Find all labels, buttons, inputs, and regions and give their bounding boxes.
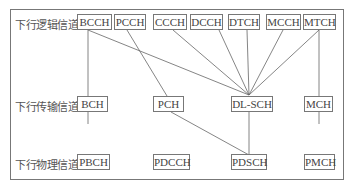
channel-pbch: PBCH bbox=[77, 154, 110, 170]
channel-mtch: MTCH bbox=[303, 14, 336, 30]
channel-ccch: CCCH bbox=[153, 14, 187, 30]
channel-pch: PCH bbox=[153, 96, 184, 112]
row-label-logical: 下行逻辑信道 bbox=[15, 16, 78, 32]
channel-mcch: MCCH bbox=[266, 14, 301, 30]
channel-pmch: PMCH bbox=[304, 154, 335, 170]
channel-dl-sch: DL-SCH bbox=[231, 96, 273, 112]
channel-pdcch: PDCCH bbox=[153, 154, 190, 170]
channel-pcch: PCCH bbox=[114, 14, 146, 30]
row-label-transport: 下行传输信道 bbox=[15, 98, 78, 114]
channel-bcch: BCCH bbox=[77, 14, 112, 30]
row-label-physical: 下行物理信道 bbox=[15, 156, 78, 172]
channel-mch: MCH bbox=[304, 96, 333, 112]
channel-dtch: DTCH bbox=[228, 14, 260, 30]
channel-bch: BCH bbox=[77, 96, 108, 112]
channel-dcch: DCCH bbox=[190, 14, 223, 30]
channel-pdsch: PDSCH bbox=[231, 154, 267, 170]
